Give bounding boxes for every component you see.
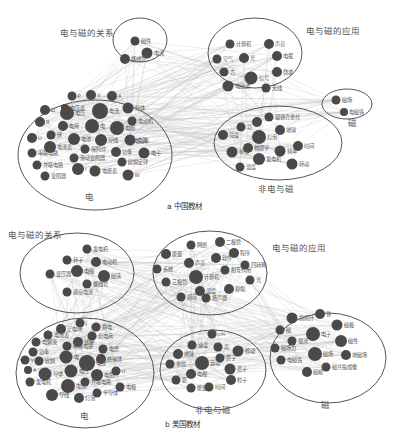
edge [277, 72, 336, 100]
node-label: 能量 [172, 250, 182, 258]
node-label: 电压 [75, 109, 85, 117]
concept-node [95, 134, 107, 146]
node-label: 高 [224, 343, 229, 351]
concept-node [272, 67, 282, 77]
node-label: 声音 [195, 259, 205, 267]
node-label: 时间 [215, 383, 225, 391]
node-label: J [85, 320, 88, 327]
node-label: U [38, 135, 42, 141]
concept-node [83, 280, 92, 289]
concept-node [35, 117, 45, 127]
node-label: 磁场力 [281, 344, 296, 352]
concept-node [195, 356, 209, 370]
node-label: 并联电路 [43, 161, 64, 169]
concept-node [63, 256, 72, 265]
node-label: U [122, 368, 126, 374]
network-diagram: 电与磁的关系磁性电流螺线管电与磁的应用计算机声音空气光电报力信号微波电磁波天线磁… [0, 0, 398, 446]
concept-node [173, 349, 183, 359]
concept-node [306, 327, 320, 341]
node-label: 三极管 [172, 278, 187, 286]
concept-node [226, 375, 236, 385]
node-label: 电流 [96, 359, 106, 367]
concept-node [220, 68, 229, 77]
node-label: 发电机 [266, 155, 282, 163]
node-label: 粒子 [237, 376, 247, 384]
node-label: 电阻 [104, 371, 114, 379]
node-label: 速度 [198, 341, 208, 349]
concept-node [81, 145, 90, 154]
node-label: 灯泡 [267, 133, 277, 141]
node-label: 电子 [321, 330, 331, 337]
node-label: 电流表 [57, 143, 73, 151]
cluster-label: 电与磁的关系 [60, 28, 114, 38]
cluster-label: 磁 [348, 118, 357, 128]
node-label: 串联电路 [38, 149, 59, 157]
node-label: 电动机 [102, 258, 118, 266]
concept-node [74, 393, 84, 403]
node-label: 变压器 [56, 270, 72, 278]
concept-node [223, 81, 234, 92]
concept-node [332, 96, 341, 105]
node-label: 移动 [245, 347, 255, 355]
node-label: 磁铁 [111, 272, 121, 280]
node-label: 相互作用 [231, 266, 251, 274]
concept-node [213, 55, 222, 64]
concept-node [262, 84, 271, 93]
concept-node [118, 158, 127, 167]
concept-node [252, 117, 262, 127]
cluster-label: 电与磁的应用 [272, 243, 326, 253]
node-label: 导线 [59, 391, 69, 398]
node-label: V [97, 92, 101, 98]
node-label: 电池 [76, 382, 86, 389]
node-label: 转动 [299, 160, 309, 168]
node-label: 发电机 [36, 378, 52, 386]
concept-node [46, 270, 55, 279]
concept-node [40, 105, 50, 115]
node-label: 空气 [223, 55, 233, 62]
node-label: 电磁波 [235, 82, 251, 90]
concept-node [90, 166, 101, 177]
node-label: 地磁场 [352, 351, 367, 359]
node-label: 电流 [109, 107, 119, 115]
node-label: 计算机 [236, 40, 252, 48]
concept-node [272, 51, 282, 61]
concept-node [63, 288, 72, 297]
node-label: 电解液 [42, 338, 57, 346]
node-label: 静电 [102, 323, 112, 330]
concept-node [92, 103, 108, 119]
node-label: 频率 [287, 147, 297, 155]
node-label: 电 [100, 122, 105, 129]
concept-node [99, 345, 108, 354]
node-label: 螺线管 [131, 55, 146, 63]
concept-node [91, 257, 101, 267]
node-label: 单位 [176, 360, 186, 368]
node-label: 变阻器 [51, 172, 67, 180]
concept-node [287, 313, 298, 324]
node-label: 地球 [286, 126, 297, 133]
node-label: 光 [250, 54, 255, 62]
node-label: 电压 [79, 367, 89, 375]
node-label: 系统 [163, 265, 173, 273]
concept-node [65, 365, 78, 378]
concept-node [332, 320, 343, 331]
node-label: R [46, 119, 50, 125]
concept-node [61, 379, 75, 393]
node-label: A [33, 367, 37, 373]
concept-node [224, 284, 234, 294]
concept-node [237, 123, 246, 132]
node-label: 电流表 [54, 331, 70, 339]
node-label: 电能表 [102, 167, 118, 175]
concept-node [63, 342, 72, 351]
node-label: 保险丝 [91, 145, 106, 153]
node-label: 伏 [57, 131, 62, 139]
concept-node [187, 384, 196, 393]
caption-a: a 中国教材 [167, 201, 203, 211]
node-label: 计算机 [204, 273, 220, 281]
node-label: 感应 [187, 293, 197, 301]
node-label: 回转网 [251, 261, 266, 269]
node-label: 电磁铁 [349, 108, 364, 116]
node-label: 力 [230, 68, 235, 76]
concept-node [189, 270, 203, 284]
concept-node [188, 341, 197, 350]
concept-node [208, 330, 217, 339]
